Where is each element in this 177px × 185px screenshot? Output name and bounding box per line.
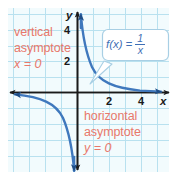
callout-function-name: f(x) — [106, 39, 123, 51]
vertical-asymptote-label-line2: asymptote — [14, 42, 71, 55]
vertical-asymptote-label-line1: vertical — [14, 26, 53, 39]
y-axis-tick-4: 4 — [64, 25, 70, 36]
callout-tail — [90, 61, 112, 84]
callout-numerator: 1 — [135, 33, 145, 44]
horizontal-asymptote-label-line1: horizontal — [84, 110, 137, 123]
y-axis-tick-2: 2 — [64, 56, 70, 67]
horizontal-asymptote-equation: y = 0 — [84, 142, 111, 155]
callout-fraction: 1 x — [135, 33, 145, 56]
x-axis-label: x — [160, 96, 166, 108]
callout-denominator: x — [136, 45, 145, 56]
callout-equals: = — [126, 39, 133, 51]
x-axis-tick-4: 4 — [138, 96, 144, 107]
x-axis-tick-2: 2 — [106, 96, 112, 107]
horizontal-asymptote-label-line2: asymptote — [84, 126, 141, 139]
function-graph-figure: vertical asymptote x = 0 horizontal asym… — [0, 0, 177, 185]
function-equation-callout: f(x) = 1 x — [106, 33, 145, 56]
vertical-asymptote-equation: x = 0 — [14, 58, 41, 71]
curve-branch-negative — [15, 94, 74, 170]
y-axis-label: y — [66, 10, 72, 22]
